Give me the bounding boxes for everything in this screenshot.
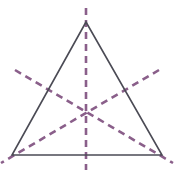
triangle-symmetry-diagram <box>0 0 174 177</box>
geometry-figure-canvas <box>0 0 174 177</box>
